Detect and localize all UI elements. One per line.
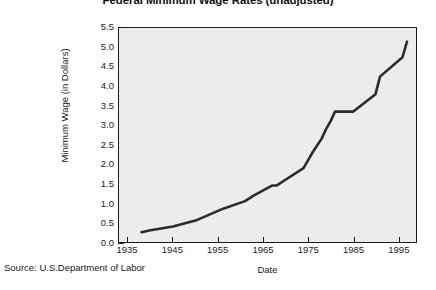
x-tick-mark — [399, 237, 400, 243]
x-tick-label: 1935 — [105, 245, 149, 255]
y-tick-label: 1.0 — [84, 199, 114, 209]
x-tick-label: 1975 — [286, 245, 330, 255]
x-tick-mark — [354, 237, 355, 243]
plot-canvas — [119, 28, 416, 242]
y-tick-label: 3.5 — [84, 101, 114, 111]
y-axis-label: Minimum Wage (in Dollars) — [59, 16, 70, 196]
y-tick-label: 4.0 — [84, 81, 114, 91]
y-tick-label: 5.0 — [84, 42, 114, 52]
x-tick-label: 1945 — [150, 245, 194, 255]
y-tick-label: 4.5 — [84, 61, 114, 71]
y-tick-label: 2.5 — [84, 140, 114, 150]
chart-figure: Federal Minimum Wage Rates (unadjusted) … — [0, 0, 436, 290]
x-tick-mark — [127, 237, 128, 243]
y-tick-label: 3.0 — [84, 120, 114, 130]
x-tick-mark — [308, 237, 309, 243]
x-axis-tick-labels: 1935194519551965197519851995 — [0, 245, 436, 259]
x-tick-label: 1985 — [332, 245, 376, 255]
chart-title: Federal Minimum Wage Rates (unadjusted) — [0, 0, 436, 6]
y-tick-label: 5.5 — [84, 22, 114, 32]
x-tick-mark — [218, 237, 219, 243]
plot-area — [118, 27, 417, 243]
x-tick-label: 1995 — [377, 245, 421, 255]
y-tick-label: 1.5 — [84, 179, 114, 189]
x-tick-label: 1965 — [241, 245, 285, 255]
x-axis-label: Date — [118, 264, 417, 275]
x-tick-label: 1955 — [196, 245, 240, 255]
x-tick-mark — [263, 237, 264, 243]
y-tick-label: 2.0 — [84, 159, 114, 169]
y-tick-label: 0.5 — [84, 218, 114, 228]
data-line-federal-minimum-wage — [141, 42, 407, 233]
source-caption: Source: U.S.Department of Labor — [4, 262, 145, 273]
x-tick-mark — [172, 237, 173, 243]
